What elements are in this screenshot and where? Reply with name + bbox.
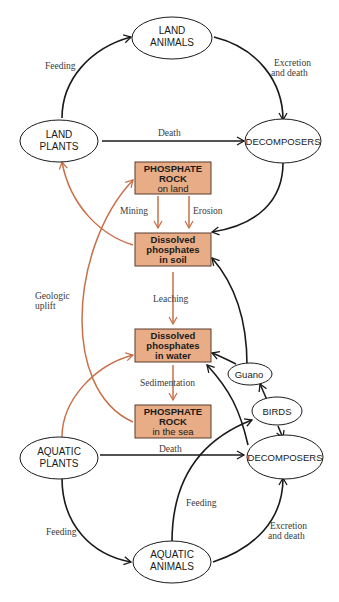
svg-text:in water: in water (155, 350, 191, 361)
arrow-aquatic-plants-to-water (62, 355, 133, 437)
node-birds: BIRDS (252, 397, 302, 425)
svg-text:LAND: LAND (159, 25, 186, 36)
label-excretion-sea-2: and death (268, 531, 305, 541)
arrow-birds-to-guano (260, 384, 267, 400)
node-phosphate-rock-land: PHOSPHATE ROCK on land (135, 162, 211, 194)
node-dissolved-water: Dissolved phosphates in water (135, 329, 211, 362)
svg-text:AQUATIC: AQUATIC (150, 549, 194, 560)
svg-text:in the sea: in the sea (152, 426, 194, 437)
phosphorus-cycle-diagram: LAND ANIMALS LAND PLANTS DECOMPOSERS Gua… (0, 0, 339, 602)
node-guano: Guano (228, 363, 272, 385)
svg-text:ANIMALS: ANIMALS (150, 37, 194, 48)
label-feeding-sea: Feeding (46, 527, 77, 537)
svg-text:PLANTS: PLANTS (40, 141, 79, 152)
label-geologic-1: Geologic (35, 291, 70, 301)
svg-text:on land: on land (157, 183, 188, 194)
svg-text:ANIMALS: ANIMALS (150, 561, 194, 572)
label-excretion-land-1: Excretion (274, 58, 311, 68)
svg-text:DECOMPOSERS: DECOMPOSERS (246, 136, 321, 147)
label-death-land: Death (158, 128, 181, 138)
arrow-guano-to-water (212, 353, 236, 364)
arrow-geologic-uplift (82, 180, 133, 422)
node-land-animals: LAND ANIMALS (132, 17, 212, 59)
label-feeding-land: Feeding (45, 61, 76, 71)
label-mining: Mining (120, 206, 148, 216)
node-aquatic-plants: AQUATIC PLANTS (20, 437, 98, 479)
label-sedimentation: Sedimentation (140, 378, 195, 388)
label-excretion-sea-1: Excretion (270, 521, 307, 531)
arrow-guano-to-soil (212, 258, 247, 365)
label-erosion: Erosion (193, 206, 223, 216)
arrow-soil-to-land-plants (62, 162, 133, 245)
node-dissolved-soil: Dissolved phosphates in soil (135, 233, 211, 266)
node-aquatic-animals: AQUATIC ANIMALS (133, 541, 211, 583)
label-excretion-land-2: and death (271, 68, 308, 78)
arrow-land-feeding (62, 37, 131, 118)
svg-text:in soil: in soil (159, 254, 186, 265)
label-geologic-2: uplift (35, 301, 56, 311)
arrow-sea-feeding (62, 478, 131, 562)
arrow-sea-excretion (213, 478, 283, 562)
svg-text:BIRDS: BIRDS (262, 406, 291, 417)
svg-text:AQUATIC: AQUATIC (37, 446, 81, 457)
svg-text:DECOMPOSERS: DECOMPOSERS (248, 452, 323, 463)
node-land-plants: LAND PLANTS (20, 120, 98, 162)
node-decomposers-sea: DECOMPOSERS (247, 435, 323, 479)
svg-text:PLANTS: PLANTS (40, 458, 79, 469)
arrow-land-excretion (214, 37, 283, 120)
label-death-sea: Death (159, 444, 182, 454)
node-phosphate-rock-sea: PHOSPHATE ROCK in the sea (135, 405, 211, 438)
svg-text:LAND: LAND (46, 129, 73, 140)
node-decomposers-land: DECOMPOSERS (245, 119, 321, 163)
arrow-decomposers-to-soil (212, 163, 283, 232)
label-leaching: Leaching (153, 294, 189, 304)
label-feeding-birds: Feeding (186, 498, 217, 508)
svg-text:Guano: Guano (235, 369, 264, 380)
